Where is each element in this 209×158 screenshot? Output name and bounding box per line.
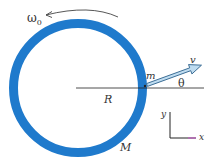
omega-label: ω0 bbox=[27, 12, 42, 27]
angle-label: θ bbox=[178, 78, 185, 89]
omega-symbol: ω bbox=[27, 11, 37, 25]
particle-m bbox=[144, 85, 146, 87]
omega-subscript: 0 bbox=[37, 18, 42, 27]
axis-y-label: y bbox=[161, 110, 166, 119]
axis-x-label: x bbox=[199, 133, 204, 142]
mass-ring-label: M bbox=[120, 142, 131, 153]
radius-label: R bbox=[104, 94, 112, 105]
mass-particle-label: m bbox=[146, 71, 155, 81]
velocity-label: v bbox=[190, 55, 196, 65]
rotation-arrow-icon bbox=[46, 10, 118, 17]
diagram-canvas: ω0 m v θ R M y x bbox=[0, 0, 209, 158]
